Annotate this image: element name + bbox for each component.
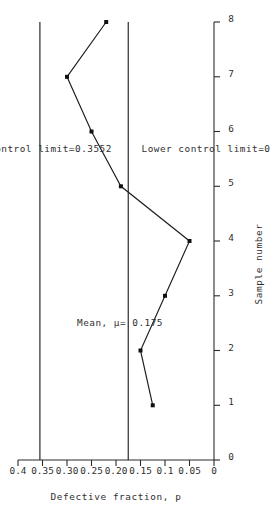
data-point — [139, 349, 143, 353]
sample-tick-label: 5 — [228, 177, 234, 188]
sample-axis-ticks — [214, 22, 220, 460]
data-point — [90, 130, 94, 134]
rotated-plot-container: 0.4 0.35 0.30 0.25 0.20 0.15 0.1 0.05 0 … — [0, 0, 276, 522]
sample-tick-label: 7 — [228, 68, 234, 79]
data-point — [119, 184, 123, 188]
value-tick-label: 0.35 — [31, 465, 54, 476]
value-axis-title: Defective fraction, p — [50, 491, 181, 502]
p-chart-svg: 0.4 0.35 0.30 0.25 0.20 0.15 0.1 0.05 0 … — [0, 0, 276, 522]
sample-tick-label: 1 — [228, 396, 234, 407]
sample-tick-label: 4 — [228, 232, 234, 243]
value-tick-label: 0.25 — [80, 465, 103, 476]
value-tick-label: 0.05 — [178, 465, 201, 476]
lower-control-limit-label: Lower control limit=0 — [141, 143, 270, 154]
sample-axis-title: Sample number — [253, 223, 264, 304]
data-point — [151, 403, 155, 407]
data-point — [65, 75, 69, 79]
mean-line-label: Mean, μ= 0.175 — [77, 317, 163, 328]
sample-tick-label: 8 — [228, 13, 234, 24]
value-tick-label: 0.1 — [157, 465, 174, 476]
value-axis-tick-labels: 0.4 0.35 0.30 0.25 0.20 0.15 0.1 0.05 0 — [10, 465, 218, 476]
control-chart-figure: 0.4 0.35 0.30 0.25 0.20 0.15 0.1 0.05 0 … — [0, 0, 276, 522]
upper-control-limit-label: Upper control limit=0.3552 — [0, 143, 112, 154]
data-point — [104, 20, 108, 24]
sample-axis-tick-labels: 0 1 2 3 4 5 6 7 8 — [228, 13, 234, 462]
data-point — [163, 294, 167, 298]
sample-tick-label: 2 — [228, 342, 234, 353]
sample-tick-label: 6 — [228, 123, 234, 134]
value-tick-label: 0 — [211, 465, 217, 476]
sample-tick-label: 0 — [228, 451, 234, 462]
data-point — [188, 239, 192, 243]
value-tick-label: 0.4 — [10, 465, 27, 476]
value-tick-label: 0.15 — [129, 465, 152, 476]
sample-tick-label: 3 — [228, 287, 234, 298]
value-tick-label: 0.30 — [56, 465, 79, 476]
value-tick-label: 0.20 — [105, 465, 128, 476]
